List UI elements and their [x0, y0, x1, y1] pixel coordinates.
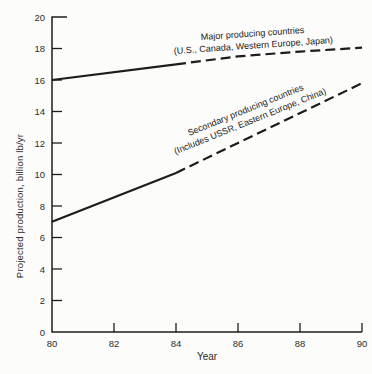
x-tick-label: 88 [295, 338, 306, 349]
x-tick-label: 82 [109, 338, 120, 349]
y-tick-label: 12 [34, 138, 45, 149]
axis-spine [52, 17, 362, 332]
x-axis-title: Year [197, 351, 217, 362]
series-0-solid-line [52, 64, 176, 80]
y-axis-title: Projected production, billion lb/yr [14, 134, 25, 278]
x-tick-label: 86 [233, 338, 244, 349]
y-tick-label: 18 [34, 43, 45, 54]
y-tick-label: 20 [34, 12, 45, 23]
y-tick-label: 8 [40, 201, 45, 212]
y-tick-label: 6 [40, 232, 45, 243]
y-tick-label: 2 [40, 295, 45, 306]
y-tick-label: 4 [40, 264, 45, 275]
x-tick-label: 84 [171, 338, 182, 349]
x-tick-label: 90 [357, 338, 368, 349]
y-tick-label: 0 [40, 327, 45, 338]
series-1-solid-line [52, 173, 176, 222]
chart-figure: 02468101214161820808284868890 Projected … [0, 0, 372, 374]
y-tick-label: 14 [34, 106, 45, 117]
x-tick-label: 80 [47, 338, 58, 349]
y-tick-label: 16 [34, 75, 45, 86]
y-tick-label: 10 [34, 169, 45, 180]
